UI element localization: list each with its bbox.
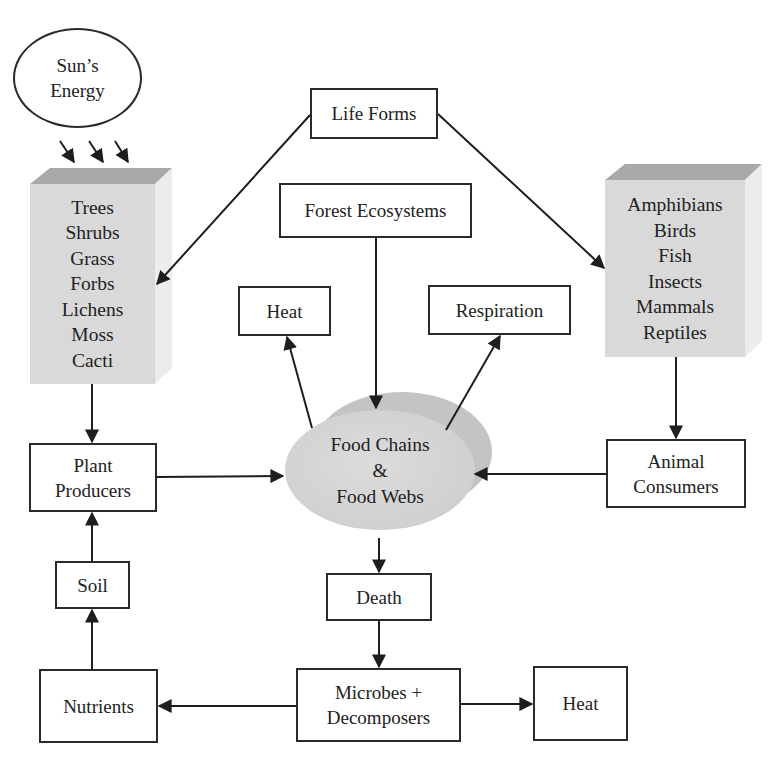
animal-item: Reptiles — [643, 320, 707, 346]
microbes-line1: Microbes + — [335, 680, 422, 705]
animal-consumers-line2: Consumers — [633, 474, 719, 499]
food-web-line1: Food Chains — [330, 432, 429, 458]
plant-item: Grass — [70, 246, 114, 272]
animal-item: Amphibians — [627, 192, 722, 218]
animals-block: Amphibians Birds Fish Insects Mammals Re… — [605, 180, 745, 357]
plant-producers-node: Plant Producers — [29, 443, 157, 512]
sun-energy-node: Sun’s Energy — [13, 28, 142, 128]
sun-ray-arrow-2 — [89, 141, 103, 162]
plant-producers-line1: Plant — [73, 453, 112, 478]
nutrients-node: Nutrients — [39, 669, 158, 743]
animal-consumers-node: Animal Consumers — [606, 439, 746, 508]
plant-item: Forbs — [70, 271, 114, 297]
food-web-line3: Food Webs — [336, 484, 423, 510]
plant-item: Shrubs — [65, 220, 119, 246]
plant-item: Moss — [71, 322, 113, 348]
life-forms-node: Life Forms — [310, 88, 438, 139]
microbes-line2: Decomposers — [327, 705, 430, 730]
heat-bottom-label: Heat — [563, 691, 599, 716]
plant-item: Trees — [71, 195, 114, 221]
food-web-line2: & — [372, 458, 387, 484]
respiration-label: Respiration — [456, 298, 544, 323]
death-label: Death — [356, 585, 401, 610]
food-web-node: Food Chains & Food Webs — [285, 415, 475, 527]
respiration-node: Respiration — [428, 285, 571, 335]
heat-top-node: Heat — [238, 286, 331, 336]
sun-ray-arrow-3 — [115, 141, 128, 162]
plant-item: Lichens — [62, 297, 124, 323]
animal-consumers-line1: Animal — [648, 449, 705, 474]
plant-producers-line2: Producers — [55, 478, 131, 503]
plants-block: Trees Shrubs Grass Forbs Lichens Moss Ca… — [30, 184, 155, 384]
nutrients-label: Nutrients — [63, 694, 134, 719]
microbes-decomposers-node: Microbes + Decomposers — [296, 668, 461, 742]
heat-bottom-node: Heat — [533, 666, 628, 741]
animal-item: Mammals — [636, 294, 714, 320]
forest-ecosystem-diagram: Sun’s Energy Life Forms Forest Ecosystem… — [0, 0, 774, 770]
heat-top-label: Heat — [267, 299, 303, 324]
arrow-producers-to-foodweb — [157, 476, 283, 477]
death-node: Death — [326, 573, 432, 621]
plant-item: Cacti — [72, 348, 113, 374]
sun-label-line1: Sun’s — [56, 53, 98, 78]
animal-item: Insects — [648, 269, 702, 295]
sun-label-line2: Energy — [50, 78, 105, 103]
animal-item: Fish — [658, 243, 692, 269]
forest-ecosystems-node: Forest Ecosystems — [279, 183, 472, 238]
animal-item: Birds — [654, 218, 696, 244]
forest-ecosystems-label: Forest Ecosystems — [305, 198, 447, 223]
sun-ray-arrow-1 — [60, 141, 74, 162]
life-forms-label: Life Forms — [332, 101, 417, 126]
soil-label: Soil — [77, 573, 108, 598]
soil-node: Soil — [55, 561, 130, 609]
